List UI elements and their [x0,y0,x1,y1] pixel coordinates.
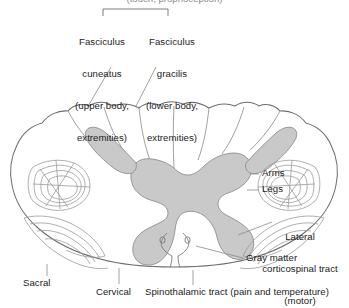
label-line: Lateral [252,232,348,243]
label-line: gracilis [136,69,208,80]
label-line: (upper body, [66,101,138,112]
label-line: extremities) [136,133,208,144]
label-arms: Arms [262,168,285,179]
label-gray-matter: Gray matter [246,253,297,264]
label-line: extremities) [66,133,138,144]
spinal-cord-diagram: (touch, proprioception) [0,0,349,308]
label-line: cuneatus [66,69,138,80]
dorsal-column-bracket [103,9,168,16]
label-fasciculus-gracilis: Fasciculus gracilis (lower body, extremi… [136,16,208,164]
label-fasciculus-cuneatus: Fasciculus cuneatus (upper body, extremi… [66,16,138,164]
label-line: Fasciculus [66,37,138,48]
label-spinothalamic-tract: Spinothalamic tract (pain and temperatur… [145,287,329,298]
label-line: (lower body, [136,101,208,112]
label-line: Fasciculus [136,37,208,48]
label-line: corticospinal tract [252,264,348,275]
leader-lines-left [47,264,119,284]
label-sacral: Sacral [23,278,51,289]
label-legs: Legs [262,184,283,195]
label-cervical: Cervical [96,287,131,298]
